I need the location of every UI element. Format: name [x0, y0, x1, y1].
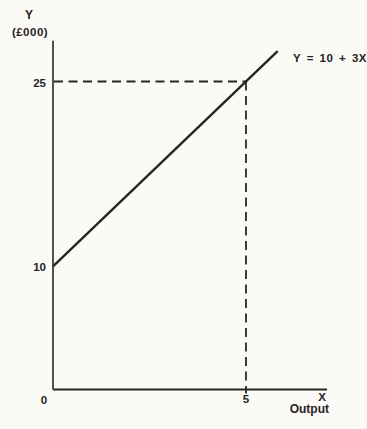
y-tick-label-25: 25: [20, 77, 46, 89]
function-line: [53, 51, 278, 266]
y-axis-units-label: (£000): [5, 26, 55, 38]
y-tick-label-10: 10: [20, 261, 46, 273]
origin-tick-label: 0: [36, 394, 52, 406]
x-tick-label-5: 5: [238, 393, 254, 405]
line-equation-label: Y = 10 + 3X: [293, 52, 367, 64]
x-axis-units-label: Output: [279, 403, 329, 415]
y-axis-title: Y: [17, 9, 41, 21]
